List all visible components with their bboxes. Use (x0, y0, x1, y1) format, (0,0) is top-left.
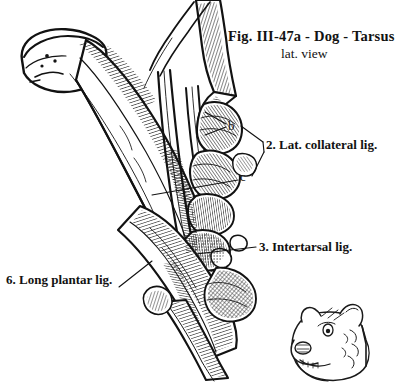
label-lat-collateral-lig: 2. Lat. collateral lig. (266, 137, 377, 153)
figure-page: Fig. III-47a - Dog - Tarsus lat. view 2.… (0, 0, 396, 391)
label-long-plantar-lig: 6. Long plantar lig. (6, 272, 112, 288)
marker-c: c (240, 169, 246, 185)
figure-subtitle: lat. view (281, 46, 328, 62)
dog-head-sketch-inset (0, 0, 396, 391)
figure-title: Fig. III-47a - Dog - Tarsus (228, 28, 395, 45)
marker-b: b (228, 118, 235, 134)
label-intertarsal-lig: 3. Intertarsal lig. (259, 239, 352, 255)
